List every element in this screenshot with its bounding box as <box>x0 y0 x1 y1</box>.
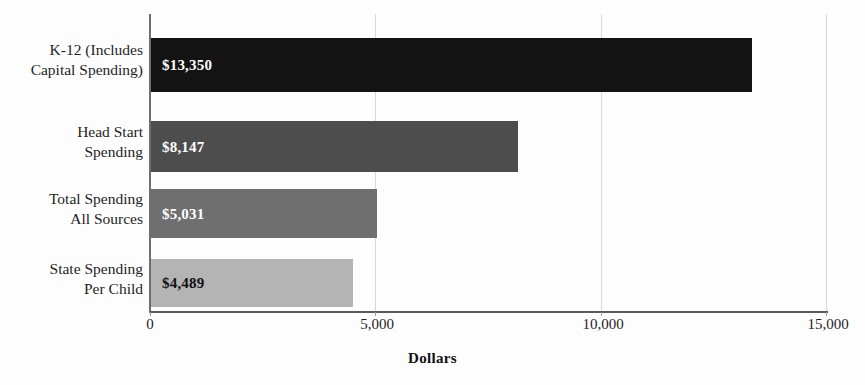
plot-area: $13,350 $8,147 $5,031 $4,489 <box>150 14 827 312</box>
category-label-head-start-line2: Spending <box>0 142 143 162</box>
tick-label-5000: 5,000 <box>360 316 394 333</box>
category-label-k12-line1: K-12 (Includes <box>0 40 143 60</box>
category-label-head-start: Head Start Spending <box>0 122 143 161</box>
bar-row-state-spending: $4,489 <box>150 259 827 307</box>
category-label-k12: K-12 (Includes Capital Spending) <box>0 40 143 79</box>
bar-value-state-spending: $4,489 <box>162 275 204 292</box>
bar-head-start[interactable]: $8,147 <box>150 121 518 172</box>
x-axis-line <box>150 311 828 313</box>
category-axis-labels: K-12 (Includes Capital Spending) Head St… <box>0 0 143 385</box>
x-axis-title: Dollars <box>0 350 865 367</box>
bar-chart: K-12 (Includes Capital Spending) Head St… <box>0 0 865 385</box>
tick-label-10000: 10,000 <box>582 316 623 333</box>
category-label-state-spending: State Spending Per Child <box>0 259 143 298</box>
bar-value-k12: $13,350 <box>162 57 212 74</box>
category-label-total-spending: Total Spending All Sources <box>0 189 143 228</box>
tick-label-15000: 15,000 <box>807 316 848 333</box>
bar-row-k12: $13,350 <box>150 38 827 92</box>
category-label-total-spending-line2: All Sources <box>0 209 143 229</box>
category-label-k12-line2: Capital Spending) <box>0 60 143 80</box>
tick-label-0: 0 <box>146 316 154 333</box>
bar-value-head-start: $8,147 <box>162 138 204 155</box>
category-label-state-spending-line1: State Spending <box>0 259 143 279</box>
bar-value-total-spending: $5,031 <box>162 205 204 222</box>
y-axis-line <box>149 14 151 313</box>
bar-k12[interactable]: $13,350 <box>150 38 752 92</box>
bar-state-spending[interactable]: $4,489 <box>150 259 353 307</box>
bar-row-head-start: $8,147 <box>150 121 827 172</box>
bar-row-total-spending: $5,031 <box>150 189 827 238</box>
category-label-head-start-line1: Head Start <box>0 122 143 142</box>
bar-total-spending[interactable]: $5,031 <box>150 189 377 238</box>
category-label-total-spending-line1: Total Spending <box>0 189 143 209</box>
category-label-state-spending-line2: Per Child <box>0 279 143 299</box>
